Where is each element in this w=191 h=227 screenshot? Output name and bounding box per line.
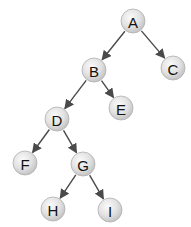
edge-a-c-arrow xyxy=(141,31,164,58)
node-label: I xyxy=(108,203,112,220)
node-label: B xyxy=(89,63,99,80)
node-label: H xyxy=(48,202,59,219)
tree-node-a: A xyxy=(121,9,145,33)
tree-node-g: G xyxy=(71,152,95,176)
edge-g-h-arrow xyxy=(60,175,76,198)
node-label: G xyxy=(77,157,89,174)
node-label: D xyxy=(52,112,63,129)
tree-node-e: E xyxy=(109,96,133,120)
tree-node-h: H xyxy=(41,197,65,221)
edge-d-f-arrow xyxy=(33,130,50,153)
node-label: A xyxy=(128,14,138,31)
node-label: C xyxy=(168,61,179,78)
edge-d-g-arrow xyxy=(64,130,77,152)
tree-node-c: C xyxy=(161,56,185,80)
edge-b-d-arrow xyxy=(65,80,86,108)
edge-b-e-arrow xyxy=(102,81,114,98)
edge-a-b-arrow xyxy=(102,31,125,60)
tree-node-f: F xyxy=(13,151,37,175)
node-label: E xyxy=(116,101,126,118)
node-label: F xyxy=(20,156,29,173)
edge-g-i-arrow xyxy=(90,175,104,199)
tree-node-b: B xyxy=(82,58,106,82)
tree-node-d: D xyxy=(45,107,69,131)
tree-diagram: ABCDEFGHI xyxy=(0,0,191,227)
tree-node-i: I xyxy=(98,198,122,222)
